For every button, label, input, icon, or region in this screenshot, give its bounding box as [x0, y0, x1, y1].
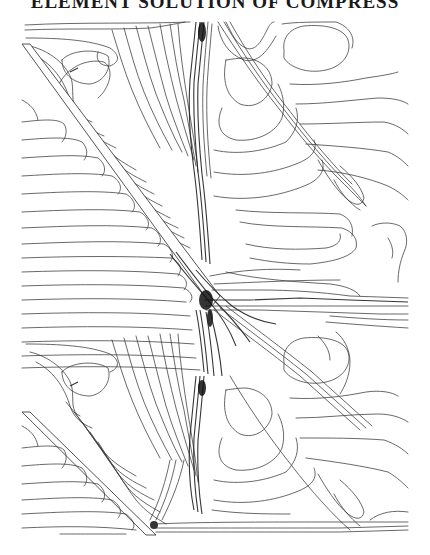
trailing-edge-singularity: [199, 290, 213, 310]
right-middle-contours: [226, 210, 408, 394]
lower-right-contours: [214, 338, 408, 530]
lower-pressure-side-contours: [22, 426, 136, 534]
dense-cluster-top: [198, 22, 206, 42]
dense-cluster-lower: [198, 380, 206, 396]
contour-figure: [0, 0, 430, 555]
upper-suction-side-contours: [25, 22, 212, 264]
lower-blade: [22, 412, 156, 535]
contour-plot-svg: [0, 0, 430, 555]
upper-right-contours: [214, 22, 408, 210]
lower-trailing-region: [150, 460, 408, 532]
